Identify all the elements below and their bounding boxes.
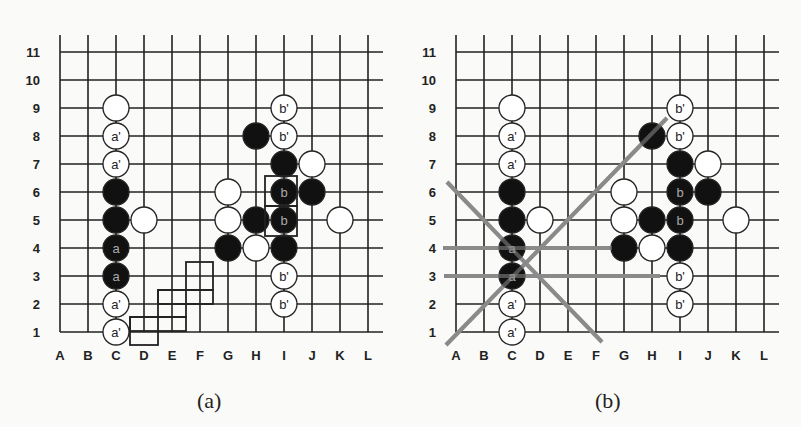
black-stone: a — [103, 263, 129, 289]
row-label: 3 — [33, 269, 40, 284]
white-stone: a' — [499, 151, 525, 177]
white-stone: b' — [271, 291, 297, 317]
white-stone: b' — [667, 95, 693, 121]
white-stone: a' — [499, 291, 525, 317]
caption-a: (a) — [197, 388, 221, 414]
col-label: G — [619, 348, 629, 363]
col-label: D — [535, 348, 544, 363]
white-stone — [695, 151, 721, 177]
stone-label: b' — [279, 101, 289, 116]
col-label: H — [647, 348, 656, 363]
go-diagram: ABCDEFGHIJKL1110987654321a'a'aaa'a'b'b'b… — [0, 0, 801, 427]
black-stone: b — [271, 207, 297, 233]
row-label: 2 — [429, 297, 436, 312]
stone-label: a' — [111, 325, 121, 340]
col-label: G — [223, 348, 233, 363]
white-stone — [499, 95, 525, 121]
white-stone: b' — [271, 95, 297, 121]
white-stone: a' — [103, 291, 129, 317]
black-stone — [667, 235, 693, 261]
stone-label: b' — [279, 269, 289, 284]
col-label: L — [364, 348, 372, 363]
black-stone: b — [667, 207, 693, 233]
row-label: 9 — [33, 101, 40, 116]
white-stone: a' — [499, 319, 525, 345]
black-stone — [215, 235, 241, 261]
col-label: E — [168, 348, 177, 363]
black-stone — [299, 179, 325, 205]
col-label: K — [731, 348, 741, 363]
white-stone — [215, 207, 241, 233]
white-stone: b' — [271, 263, 297, 289]
white-stone: b' — [667, 123, 693, 149]
white-stone: a' — [103, 151, 129, 177]
row-label: 7 — [429, 157, 436, 172]
white-stone — [611, 207, 637, 233]
row-label: 1 — [33, 325, 40, 340]
black-stone — [243, 123, 269, 149]
col-label: I — [678, 348, 682, 363]
caption-b: (b) — [595, 388, 621, 414]
stone-label: a' — [507, 297, 517, 312]
stone-label: a — [112, 269, 120, 284]
white-stone — [611, 179, 637, 205]
white-stone: b' — [667, 263, 693, 289]
col-label: C — [111, 348, 121, 363]
black-stone: b — [271, 179, 297, 205]
white-stone — [131, 207, 157, 233]
black-stone — [499, 179, 525, 205]
col-label: C — [507, 348, 517, 363]
stone-label: a' — [111, 297, 121, 312]
stone-label: a' — [111, 157, 121, 172]
board-b: ABCDEFGHIJKL1110987654321a'a'aaa'a'b'b'b… — [422, 35, 779, 363]
white-stone — [299, 151, 325, 177]
black-stone — [667, 151, 693, 177]
white-stone — [243, 235, 269, 261]
black-stone — [271, 151, 297, 177]
row-label: 5 — [429, 213, 436, 228]
black-stone — [271, 235, 297, 261]
white-stone: b' — [271, 123, 297, 149]
row-label: 8 — [429, 129, 436, 144]
white-stone: a' — [499, 123, 525, 149]
row-label: 11 — [26, 45, 40, 60]
row-label: 4 — [33, 241, 41, 256]
black-stone — [103, 179, 129, 205]
stone-label: a' — [111, 129, 121, 144]
white-stone: a' — [103, 319, 129, 345]
black-stone — [695, 179, 721, 205]
col-label: A — [55, 348, 65, 363]
white-stone — [527, 207, 553, 233]
white-stone — [103, 95, 129, 121]
black-stone — [499, 207, 525, 233]
stone-label: b' — [675, 129, 685, 144]
row-label: 5 — [33, 213, 40, 228]
row-label: 4 — [429, 241, 437, 256]
row-label: 6 — [429, 185, 436, 200]
col-label: E — [564, 348, 573, 363]
stone-label: b' — [675, 269, 685, 284]
white-stone — [723, 207, 749, 233]
col-label: I — [282, 348, 286, 363]
row-label: 8 — [33, 129, 40, 144]
stone-label: b' — [279, 129, 289, 144]
col-label: F — [592, 348, 600, 363]
white-stone — [215, 179, 241, 205]
stone-label: b — [676, 213, 683, 228]
col-label: F — [196, 348, 204, 363]
row-label: 3 — [429, 269, 436, 284]
black-stone: b — [667, 179, 693, 205]
stone-label: b' — [675, 101, 685, 116]
stone-label: a' — [507, 157, 517, 172]
white-stone — [327, 207, 353, 233]
stone-label: b — [280, 185, 287, 200]
direction-line-overlay — [446, 118, 667, 345]
stone-label: a — [112, 241, 120, 256]
black-stone: a — [103, 235, 129, 261]
col-label: J — [308, 348, 315, 363]
col-label: B — [479, 348, 488, 363]
stone-label: a' — [507, 129, 517, 144]
stone-label: b' — [279, 297, 289, 312]
col-label: D — [139, 348, 148, 363]
row-label: 1 — [429, 325, 436, 340]
